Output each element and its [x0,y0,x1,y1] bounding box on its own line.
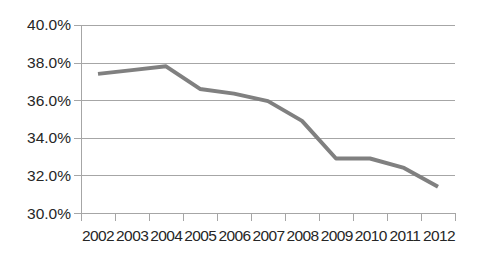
x-axis-tick-mark [149,214,150,221]
y-axis-tick-label: 34.0% [0,130,71,146]
y-axis-tick-mark [74,138,81,139]
x-axis-tick-label: 2010 [354,228,388,250]
x-axis-tick-mark [183,214,184,221]
y-axis-tick-mark [74,175,81,176]
x-axis-tick-mark [319,214,320,221]
x-axis-tick-label: 2011 [388,228,422,250]
x-axis-tick-mark [285,214,286,221]
y-axis-tick-label: 38.0% [0,55,71,71]
y-axis-tick-label-text: 32.0% [27,167,71,184]
x-axis-tick-label: 2004 [149,228,183,250]
gridline [81,138,455,139]
y-axis-tick-mark [74,63,81,64]
y-axis-line [81,25,82,214]
x-axis-tick-label: 2007 [251,228,285,250]
gridline [81,63,455,64]
x-axis-tick-label: 2002 [81,228,115,250]
y-axis-tick-label: 36.0% [0,93,71,109]
gridline [81,100,455,101]
x-axis-tick-label: 2008 [286,228,320,250]
y-axis-tick-label-text: 38.0% [27,54,71,71]
x-axis-tick-label: 2006 [217,228,251,250]
plot-area [81,25,455,213]
x-axis-tick-label: 2009 [320,228,354,250]
x-axis-tick-label: 2012 [422,228,456,250]
x-axis-line [81,213,456,214]
x-axis-tick-mark [115,214,116,221]
y-axis-tick-label-text: 34.0% [27,129,71,146]
x-axis-tick-mark [353,214,354,221]
y-axis-tick-mark [74,25,81,26]
y-axis-tick-label: 30.0% [0,206,71,222]
x-axis-tick-label: 2005 [183,228,217,250]
x-axis-tick-mark [217,214,218,221]
x-axis-tick-mark [421,214,422,221]
y-axis-tick-label-text: 36.0% [27,92,71,109]
x-axis-tick-mark [251,214,252,221]
x-axis-tick-mark [387,214,388,221]
y-axis-tick-mark [74,100,81,101]
x-axis-tick-mark [455,214,456,221]
x-axis-tick-label: 2003 [115,228,149,250]
line-chart: 40.0% 38.0% 36.0% 34.0% 32.0% 30.0% [0,0,477,263]
y-axis-tick-label: 32.0% [0,168,71,184]
y-axis-tick-label: 40.0% [0,17,71,33]
gridline [81,175,455,176]
x-axis-tick-mark [81,214,82,221]
y-axis-tick-mark [74,213,81,214]
x-axis-tick-labels: 2002 2003 2004 2005 2006 2007 2008 2009 … [81,228,456,250]
y-axis-tick-label-text: 30.0% [27,205,71,222]
y-axis-tick-label-text: 40.0% [27,16,71,33]
gridline [81,25,455,26]
